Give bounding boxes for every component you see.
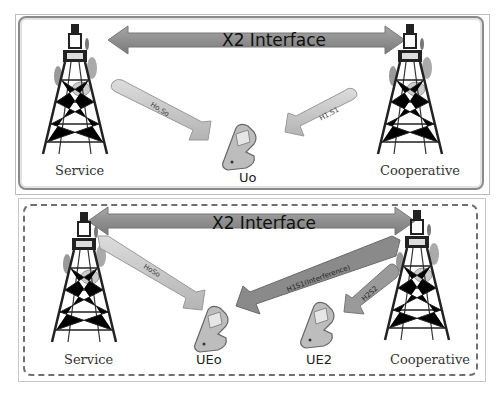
bottom-service-label: Service — [64, 352, 113, 367]
bottom-ue0-phone — [195, 306, 228, 352]
top-cooperative-label: Cooperative — [380, 163, 460, 178]
bottom-ue2-label: UE2 — [306, 352, 332, 367]
bottom-ue0-label: UEo — [196, 352, 222, 367]
bottom-ue2-phone — [301, 302, 334, 348]
diagram-graphics — [0, 0, 500, 394]
top-x2-label: X2 Interface — [222, 30, 326, 50]
bottom-x2-label: X2 Interface — [212, 213, 316, 233]
top-service-label: Service — [55, 163, 104, 178]
top-arrow-h1s1 — [285, 88, 357, 136]
top-ue-label: Uo — [239, 170, 256, 185]
bottom-cooperative-label: Cooperative — [390, 352, 470, 367]
top-service-tower — [43, 24, 107, 154]
top-ue-phone — [223, 124, 256, 170]
